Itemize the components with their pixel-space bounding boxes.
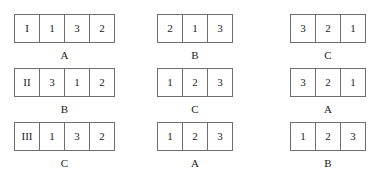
cell-strip-group: 123A bbox=[157, 122, 233, 169]
diagram-board: I132A213B321CII312B123C321AIII132C123A12… bbox=[0, 0, 377, 184]
strip-cell: 2 bbox=[90, 15, 115, 42]
strip-caption: C bbox=[157, 104, 233, 115]
strip-cell: 1 bbox=[158, 69, 183, 96]
strip-caption: B bbox=[157, 50, 233, 61]
strip-cell: 3 bbox=[208, 15, 233, 42]
strip-cell: 2 bbox=[158, 15, 183, 42]
cell-strip: II312 bbox=[14, 68, 115, 97]
strip-cell: 1 bbox=[40, 15, 65, 42]
cell-strip: 123 bbox=[290, 122, 366, 151]
strip-cell: 3 bbox=[40, 69, 65, 96]
strip-cell: 3 bbox=[208, 69, 233, 96]
strip-cell: 2 bbox=[316, 15, 341, 42]
strip-cell: 2 bbox=[183, 123, 208, 150]
strip-caption: B bbox=[14, 104, 115, 115]
strip-cell: 3 bbox=[208, 123, 233, 150]
cell-strip: I132 bbox=[14, 14, 115, 43]
cell-strip-group: I132A bbox=[14, 14, 115, 61]
strip-cell: 2 bbox=[183, 69, 208, 96]
strip-caption: A bbox=[157, 158, 233, 169]
strip-cell: 1 bbox=[40, 123, 65, 150]
strip-caption: A bbox=[290, 104, 366, 115]
cell-strip-group: 321C bbox=[290, 14, 366, 61]
strip-cell: 3 bbox=[341, 123, 366, 150]
strip-cell: 1 bbox=[158, 123, 183, 150]
strip-cell: 3 bbox=[291, 69, 316, 96]
cell-strip-group: 123B bbox=[290, 122, 366, 169]
strip-cell: 1 bbox=[65, 69, 90, 96]
strip-cell: 3 bbox=[65, 15, 90, 42]
strip-caption: B bbox=[290, 158, 366, 169]
strip-cell: I bbox=[15, 15, 40, 42]
strip-cell: 2 bbox=[90, 123, 115, 150]
cell-strip: 123 bbox=[157, 122, 233, 151]
cell-strip: 213 bbox=[157, 14, 233, 43]
cell-strip-group: III132C bbox=[14, 122, 115, 169]
strip-caption: C bbox=[14, 158, 115, 169]
cell-strip: III132 bbox=[14, 122, 115, 151]
strip-cell: 1 bbox=[291, 123, 316, 150]
cell-strip: 123 bbox=[157, 68, 233, 97]
strip-cell: 2 bbox=[316, 69, 341, 96]
strip-caption: C bbox=[290, 50, 366, 61]
strip-cell: 3 bbox=[291, 15, 316, 42]
strip-cell: 3 bbox=[65, 123, 90, 150]
cell-strip: 321 bbox=[290, 14, 366, 43]
strip-cell: III bbox=[15, 123, 40, 150]
strip-cell: II bbox=[15, 69, 40, 96]
strip-cell: 1 bbox=[341, 15, 366, 42]
strip-cell: 1 bbox=[341, 69, 366, 96]
cell-strip: 321 bbox=[290, 68, 366, 97]
cell-strip-group: 123C bbox=[157, 68, 233, 115]
strip-cell: 2 bbox=[90, 69, 115, 96]
strip-cell: 1 bbox=[183, 15, 208, 42]
strip-caption: A bbox=[14, 50, 115, 61]
cell-strip-group: 321A bbox=[290, 68, 366, 115]
cell-strip-group: 213B bbox=[157, 14, 233, 61]
cell-strip-group: II312B bbox=[14, 68, 115, 115]
strip-cell: 2 bbox=[316, 123, 341, 150]
